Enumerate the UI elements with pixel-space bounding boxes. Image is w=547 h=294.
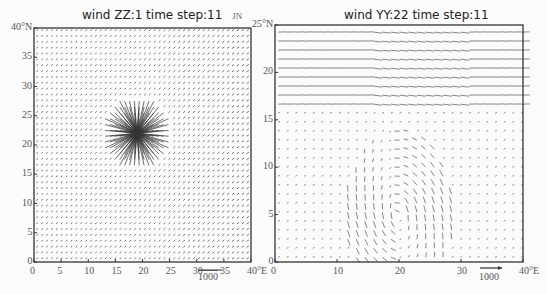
x-tick-label: 10: [84, 265, 94, 276]
wind-plots: [0, 0, 547, 294]
y-tick-label: 40°N: [11, 21, 32, 32]
y-tick-label: 35: [22, 50, 32, 61]
x-tick-label: 5: [57, 265, 62, 276]
x-tick-label: 20: [139, 265, 149, 276]
x-tick-label: 15: [111, 265, 121, 276]
left-reference-vector-label: 1000: [198, 271, 218, 282]
y-tick-label: 30: [22, 80, 32, 91]
x-tick-label: 25: [166, 265, 176, 276]
x-tick-label: 0: [30, 265, 35, 276]
y-tick-label: 10: [263, 160, 273, 171]
y-tick-label: 5: [28, 226, 33, 237]
y-tick-label: 10: [22, 197, 32, 208]
y-tick-label: 25°N: [252, 18, 273, 29]
y-tick-label: 0: [28, 255, 33, 266]
y-tick-label: 15: [263, 113, 273, 124]
y-tick-label: 0: [269, 255, 274, 266]
x-tick-label: 40°E: [519, 265, 539, 276]
y-tick-label: 20: [263, 65, 273, 76]
right-reference-vector-label: 1000: [479, 271, 499, 282]
x-tick-label: 30: [457, 265, 467, 276]
y-tick-label: 5: [269, 208, 274, 219]
x-tick-label: 35: [220, 265, 230, 276]
x-tick-label: 40°E: [247, 265, 267, 276]
y-tick-label: 20: [22, 138, 32, 149]
x-tick-label: 10: [333, 265, 343, 276]
x-tick-label: 0: [271, 265, 276, 276]
y-tick-label: 25: [22, 109, 32, 120]
y-tick-label: 15: [22, 167, 32, 178]
x-tick-label: 20: [395, 265, 405, 276]
